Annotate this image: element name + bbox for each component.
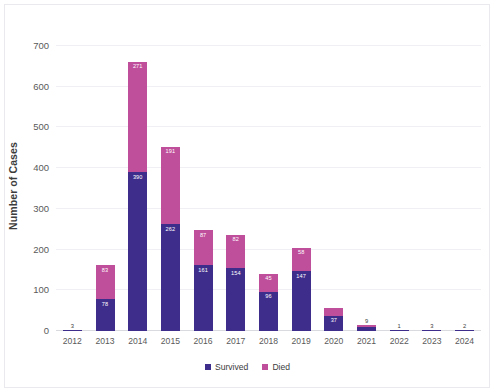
bar-stack[interactable]: 58147 — [292, 248, 311, 331]
bar-group-2021[interactable]: 9 — [350, 46, 383, 331]
bar-value-label-survived: 390 — [133, 172, 143, 180]
bar-segment-died[interactable]: 58 — [292, 248, 311, 272]
bar-segment-survived[interactable] — [390, 330, 409, 332]
chart-legend: SurvivedDied — [0, 362, 495, 372]
x-axis-tick-label-2015: 2015 — [154, 333, 187, 351]
bar-value-label-died: 58 — [298, 248, 304, 256]
bar-value-label-survived: 154 — [231, 268, 241, 276]
bar-segment-survived[interactable] — [422, 330, 441, 332]
x-axis-tick-labels: 2012201320142015201620172018201920202021… — [56, 333, 481, 351]
bar-value-label-survived: 78 — [102, 299, 108, 307]
x-axis-tick-label-2013: 2013 — [89, 333, 122, 351]
legend-label: Died — [272, 362, 290, 372]
bar-value-label-survived: 96 — [265, 292, 271, 300]
bar-group-2015[interactable]: 191262 — [154, 46, 187, 331]
plot-area: 0100200300400500600700 38378271390191262… — [56, 46, 481, 331]
x-axis-tick-label-2023: 2023 — [416, 333, 449, 351]
bar-stack[interactable]: 1 — [390, 330, 409, 332]
bar-stack[interactable]: 3 — [63, 330, 82, 332]
bar-segment-survived[interactable]: 154 — [226, 268, 245, 331]
x-axis-tick-label-2019: 2019 — [285, 333, 318, 351]
bar-value-label-survived: 37 — [331, 316, 337, 324]
bar-group-2016[interactable]: 87161 — [187, 46, 220, 331]
x-axis-tick-label-2014: 2014 — [121, 333, 154, 351]
bar-group-2013[interactable]: 8378 — [89, 46, 122, 331]
bar-group-2023[interactable]: 3 — [416, 46, 449, 331]
square-swatch-icon — [262, 364, 268, 370]
x-axis-tick-label-2012: 2012 — [56, 333, 89, 351]
chart-container: Number of Cases 0100200300400500600700 3… — [0, 0, 495, 392]
bar-segment-died[interactable] — [324, 308, 343, 316]
bar-segment-survived[interactable]: 390 — [128, 172, 147, 331]
y-axis-tick-label: 0 — [44, 325, 49, 336]
bar-stack[interactable]: 8378 — [96, 265, 115, 331]
y-axis-tick-label: 700 — [33, 40, 49, 51]
x-axis-tick-label-2021: 2021 — [350, 333, 383, 351]
bar-group-2012[interactable]: 3 — [56, 46, 89, 331]
bar-stack[interactable]: 82154 — [226, 235, 245, 331]
bar-value-label-survived: 262 — [166, 224, 176, 232]
bar-segment-died[interactable]: 45 — [259, 274, 278, 292]
bar-group-2018[interactable]: 4596 — [252, 46, 285, 331]
x-axis-tick-label-2017: 2017 — [219, 333, 252, 351]
legend-label: Survived — [215, 362, 248, 372]
y-axis-tick-label: 500 — [33, 121, 49, 132]
y-axis-tick-label: 600 — [33, 80, 49, 91]
y-axis-tick-label: 300 — [33, 202, 49, 213]
y-axis-title-text: Number of Cases — [7, 142, 19, 230]
legend-item-died[interactable]: Died — [262, 362, 290, 372]
bar-group-2017[interactable]: 82154 — [219, 46, 252, 331]
bar-segment-survived[interactable] — [455, 330, 474, 332]
bar-segment-died[interactable]: 82 — [226, 235, 245, 268]
y-axis-tick-label: 400 — [33, 162, 49, 173]
bar-stack[interactable]: 9 — [357, 325, 376, 331]
bar-stack[interactable]: 37 — [324, 308, 343, 331]
bar-group-2014[interactable]: 271390 — [121, 46, 154, 331]
x-axis-tick-label-2022: 2022 — [383, 333, 416, 351]
bar-segment-died[interactable]: 271 — [128, 62, 147, 172]
bar-group-2022[interactable]: 1 — [383, 46, 416, 331]
bar-segment-died[interactable]: 191 — [161, 147, 180, 225]
bar-segment-survived[interactable]: 147 — [292, 271, 311, 331]
legend-item-survived[interactable]: Survived — [205, 362, 248, 372]
y-axis-tick-label: 100 — [33, 284, 49, 295]
bar-value-label-died: 45 — [265, 274, 271, 282]
bar-segment-survived[interactable]: 262 — [161, 224, 180, 331]
bar-segment-died[interactable]: 83 — [96, 265, 115, 299]
bar-total-label: 3 — [430, 323, 433, 329]
bar-value-label-died: 191 — [166, 147, 176, 155]
bar-stack[interactable]: 2 — [455, 330, 474, 332]
y-axis-tick-label: 200 — [33, 243, 49, 254]
bar-segment-survived[interactable] — [357, 327, 376, 331]
bar-stack[interactable]: 87161 — [194, 230, 213, 331]
bar-total-label: 9 — [365, 318, 368, 324]
bar-stack[interactable]: 271390 — [128, 62, 147, 331]
bar-value-label-died: 82 — [233, 235, 239, 243]
bar-group-2024[interactable]: 2 — [448, 46, 481, 331]
bar-segment-survived[interactable]: 78 — [96, 299, 115, 331]
bar-stack[interactable]: 4596 — [259, 274, 278, 331]
bar-total-label: 2 — [463, 323, 466, 329]
bar-value-label-survived: 147 — [296, 271, 306, 279]
bar-segment-survived[interactable]: 161 — [194, 265, 213, 331]
bar-segment-survived[interactable]: 37 — [324, 316, 343, 331]
x-axis-tick-label-2016: 2016 — [187, 333, 220, 351]
bar-segment-survived[interactable] — [63, 330, 82, 332]
bar-segment-survived[interactable]: 96 — [259, 292, 278, 331]
x-axis-tick-label-2018: 2018 — [252, 333, 285, 351]
bar-value-label-died: 271 — [133, 62, 143, 70]
bar-segment-died[interactable]: 87 — [194, 230, 213, 265]
square-swatch-icon — [205, 364, 211, 370]
y-axis-title: Number of Cases — [4, 96, 22, 276]
bar-stack[interactable]: 3 — [422, 330, 441, 332]
bar-total-label: 1 — [398, 323, 401, 329]
x-axis-tick-label-2020: 2020 — [318, 333, 351, 351]
bar-value-label-survived: 161 — [198, 265, 208, 273]
bar-value-label-died: 83 — [102, 265, 108, 273]
bar-series-group: 3837827139019126287161821544596581473791… — [56, 46, 481, 331]
bar-stack[interactable]: 191262 — [161, 147, 180, 331]
bar-value-label-died: 87 — [200, 230, 206, 238]
bar-group-2019[interactable]: 58147 — [285, 46, 318, 331]
bar-group-2020[interactable]: 37 — [318, 46, 351, 331]
bar-total-label: 3 — [71, 323, 74, 329]
